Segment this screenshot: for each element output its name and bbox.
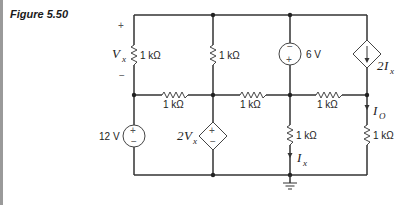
- resistor-ix: [287, 125, 293, 145]
- ground-icon: [283, 175, 297, 189]
- v12-minus-sign: −: [131, 136, 137, 147]
- vx-minus-sign: −: [119, 70, 125, 81]
- v6-plus-sign: +: [286, 54, 292, 65]
- io-label-var: I: [372, 103, 378, 118]
- depv-label-coef: 2: [177, 128, 184, 143]
- vx-label-var: V: [112, 46, 122, 61]
- resistor-mid-center: [240, 92, 266, 98]
- resistor-top-mid: [210, 45, 216, 65]
- depi-label-var: I: [383, 58, 389, 73]
- v12-plus-sign: +: [130, 125, 136, 136]
- label-resistor-vx: 1 kΩ: [140, 50, 161, 61]
- vx-plus-sign: +: [118, 20, 124, 31]
- v6-label: 6 V: [306, 49, 321, 60]
- ix-label-var: I: [296, 150, 302, 165]
- resistor-io: [364, 125, 370, 145]
- resistor-mid-right: [316, 92, 342, 98]
- circuit-diagram: 1 kΩ 1 kΩ 1 kΩ 1 kΩ 1 kΩ 1 kΩ 1 kΩ + V x…: [0, 0, 414, 207]
- arrow-io-icon: [365, 105, 370, 110]
- label-resistor-mid-right: 1 kΩ: [317, 99, 338, 110]
- depv-minus-sign: −: [210, 136, 216, 147]
- label-resistor-ix: 1 kΩ: [296, 130, 317, 141]
- resistor-mid-left: [162, 92, 188, 98]
- label-resistor-io: 1 kΩ: [373, 130, 394, 141]
- label-resistor-top-mid: 1 kΩ: [219, 50, 240, 61]
- io-label-sub: O: [379, 111, 386, 121]
- arrow-ix-icon: [288, 153, 293, 158]
- label-resistor-mid-center: 1 kΩ: [240, 99, 261, 110]
- depv-plus-sign: +: [209, 125, 215, 136]
- ix-label-sub: x: [302, 158, 307, 168]
- v12-label: 12 V: [99, 131, 120, 142]
- v6-minus-sign: −: [287, 41, 293, 52]
- vx-label-sub: x: [121, 54, 126, 64]
- label-resistor-mid-left: 1 kΩ: [163, 99, 184, 110]
- arrow-down-icon: [365, 58, 370, 63]
- depi-label-sub: x: [389, 66, 394, 76]
- depi-label-coef: 2: [377, 58, 384, 73]
- junction-nodes: [132, 13, 369, 177]
- resistor-vx: [131, 45, 137, 65]
- depv-label-sub: x: [192, 136, 197, 146]
